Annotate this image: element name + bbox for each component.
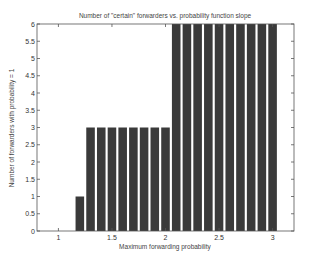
x-axis-label: Maximum forwarding probability <box>119 243 212 251</box>
y-tick-label: 0.5 <box>25 210 35 217</box>
x-tick-label: 1.5 <box>107 234 117 241</box>
bar <box>86 128 95 232</box>
y-axis-label: Number of forwarders with probability = … <box>8 68 16 187</box>
y-tick-label: 3 <box>31 124 35 131</box>
bar <box>204 24 213 231</box>
bar <box>108 128 117 232</box>
bar <box>76 197 85 232</box>
y-tick-label: 4 <box>31 90 35 97</box>
bar <box>193 24 202 231</box>
y-tick-label: 5 <box>31 55 35 62</box>
bar <box>225 24 234 231</box>
y-tick-label: 3.5 <box>25 107 35 114</box>
bars <box>76 24 277 231</box>
bar <box>161 128 170 232</box>
y-tick-label: 0 <box>31 228 35 235</box>
y-tick-label: 4.5 <box>25 72 35 79</box>
bar <box>247 24 256 231</box>
y-tick-label: 6 <box>31 21 35 28</box>
y-tick-label: 2 <box>31 159 35 166</box>
y-tick-label: 1.5 <box>25 176 35 183</box>
bar <box>151 128 160 232</box>
chart-title: Number of "certain" forwarders vs. proba… <box>79 12 252 20</box>
bar <box>172 24 181 231</box>
bar <box>268 24 277 231</box>
x-tick-label: 2.5 <box>214 234 224 241</box>
x-tick-label: 2 <box>164 234 168 241</box>
y-tick-label: 5.5 <box>25 38 35 45</box>
x-tick-label: 1 <box>56 234 60 241</box>
bar <box>118 128 127 232</box>
y-tick-label: 2.5 <box>25 141 35 148</box>
bar <box>258 24 267 231</box>
bar <box>183 24 192 231</box>
y-tick-label: 1 <box>31 193 35 200</box>
bar <box>129 128 138 232</box>
bar-chart: Number of "certain" forwarders vs. proba… <box>0 0 310 261</box>
bar <box>97 128 106 232</box>
bar <box>236 24 245 231</box>
bar <box>140 128 149 232</box>
x-tick-label: 3 <box>271 234 275 241</box>
bar <box>215 24 224 231</box>
